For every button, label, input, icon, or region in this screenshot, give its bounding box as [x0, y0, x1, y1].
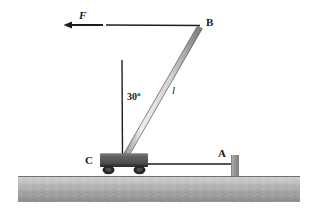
label-rod-length: l	[172, 85, 175, 96]
support-post-a	[231, 155, 239, 176]
label-point-a: A	[218, 148, 226, 159]
diagram-canvas	[0, 0, 315, 211]
angle-value: 30	[127, 91, 137, 102]
top-beam	[106, 25, 200, 26]
physics-diagram: F B A C l 30o	[0, 0, 315, 211]
degree-symbol: o	[137, 90, 141, 98]
vertical-reference-line	[122, 60, 123, 159]
force-arrow-F	[64, 22, 104, 29]
cart-c	[100, 154, 148, 175]
ground	[18, 176, 300, 202]
label-force-f: F	[79, 10, 86, 21]
label-point-b: B	[206, 17, 213, 28]
label-angle-30deg: 30o	[127, 91, 141, 102]
label-point-c: C	[85, 155, 93, 166]
